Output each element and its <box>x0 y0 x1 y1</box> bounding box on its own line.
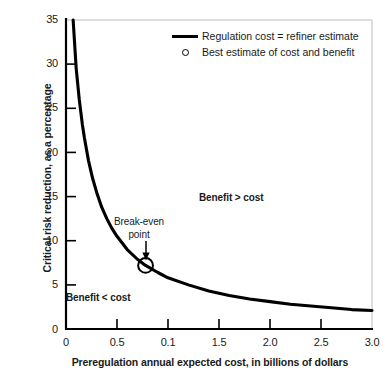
legend-item-regulation-cost: Regulation cost = refiner estimate <box>168 28 359 44</box>
x-tick-label-0: 0 <box>46 337 86 348</box>
y-tick-label-0: 0 <box>30 324 58 335</box>
x-tick-label-1p5: 1.5 <box>199 337 239 348</box>
y-axis-ticks <box>66 64 76 285</box>
y-tick-label-35: 35 <box>30 14 58 25</box>
x-axis-ticks <box>117 319 321 329</box>
legend-item-best-estimate: Best estimate of cost and benefit <box>168 44 359 60</box>
break-even-line-1: Break-even <box>96 216 182 229</box>
y-axis-title: Critical risk reduction, as a percentage <box>41 43 53 313</box>
x-tick-label-3p0: 3.0 <box>352 337 385 348</box>
legend-line-swatch-icon <box>168 35 202 38</box>
x-tick-label-2p5: 2.5 <box>301 337 341 348</box>
series-line-regulation-cost <box>73 20 372 310</box>
x-tick-label-2p0: 2.0 <box>250 337 290 348</box>
x-axis-title: Preregulation annual expected cost, in b… <box>40 356 380 368</box>
annotation-benefit-less-than-cost: Benefit < cost <box>66 292 130 303</box>
annotation-break-even-point: Break-even point <box>96 216 182 241</box>
chart-figure: 35 30 25 20 15 10 5 0 0 0.5 0.1 1.5 2.0 … <box>0 0 385 379</box>
legend-circle-swatch-icon <box>168 49 202 56</box>
annotation-benefit-greater-than-cost: Benefit > cost <box>199 192 263 203</box>
legend-label-best-estimate: Best estimate of cost and benefit <box>202 44 354 60</box>
legend-label-regulation-cost: Regulation cost = refiner estimate <box>202 28 359 44</box>
break-even-line-2: point <box>96 229 182 242</box>
chart-legend: Regulation cost = refiner estimate Best … <box>168 28 359 60</box>
x-tick-label-0p5: 0.5 <box>97 337 137 348</box>
x-tick-label-1p0: 0.1 <box>148 337 188 348</box>
